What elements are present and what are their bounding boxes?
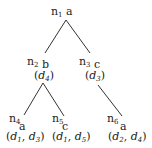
node-n3-docs: (d3) xyxy=(85,70,105,85)
node-n6-docs: (d2, d4) xyxy=(108,131,147,146)
node-n2-docs: (d4) xyxy=(34,70,54,85)
edge-n1-n3 xyxy=(66,20,90,53)
tree-diagram: n1 a n2 b (d4) n3 c (d3) n4 a (d1, d3) n… xyxy=(0,0,152,148)
node-n5-docs: (d1, d5) xyxy=(52,131,91,146)
node-n4-docs: (d1, d3) xyxy=(6,131,45,146)
node-n1-label: n1 a xyxy=(51,6,73,21)
edge-n2-n4 xyxy=(24,83,43,115)
edge-n1-n2 xyxy=(45,20,66,53)
node-n6-name: n6 xyxy=(107,113,119,128)
